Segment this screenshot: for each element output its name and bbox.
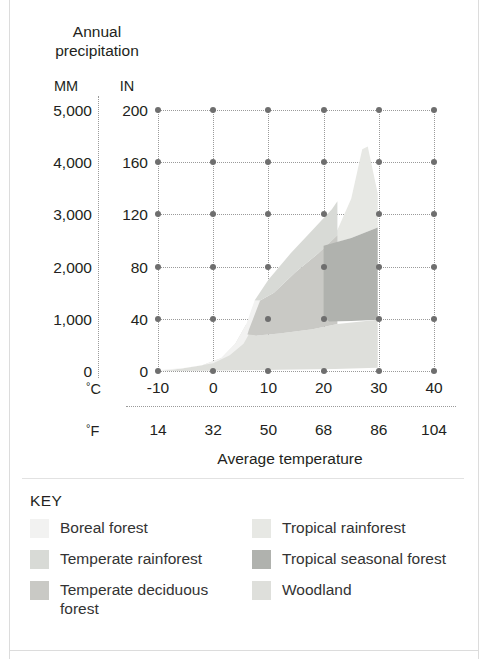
gridline-vertical: [434, 110, 435, 371]
legend-item[interactable]: Woodland: [252, 580, 467, 604]
key-title: KEY: [30, 492, 62, 510]
x-tick-label-fahrenheit: 68: [295, 421, 353, 439]
y-tick-label-mm: 4,000: [22, 154, 92, 172]
x-tick-label-celsius: 30: [350, 379, 408, 397]
biome-regions: [158, 110, 434, 371]
x-tick-label-celsius: 20: [295, 379, 353, 397]
legend-swatch: [252, 550, 271, 569]
x-tick-label-fahrenheit: 14: [129, 421, 187, 439]
legend-column-left: Boreal forestTemperate rainforestTempera…: [30, 518, 245, 625]
page-border-left: [9, 0, 10, 659]
legend-item[interactable]: Tropical rainforest: [252, 518, 467, 542]
gridline-horizontal: [158, 371, 434, 372]
legend-item-label: Tropical rainforest: [282, 518, 405, 537]
legend-swatch: [30, 581, 49, 600]
grid-node: [321, 264, 327, 270]
legend-swatch: [252, 519, 271, 538]
y-tick-label-mm: 0: [22, 363, 92, 381]
grid-node: [265, 368, 271, 374]
x-axis-unit-c-label: C: [90, 381, 100, 397]
grid-node: [321, 159, 327, 165]
x-axis-unit-celsius: °C: [86, 380, 101, 397]
grid-node: [376, 107, 382, 113]
legend-swatch: [252, 581, 271, 600]
grid-node: [431, 107, 437, 113]
y-tick-label-mm: 5,000: [22, 102, 92, 120]
x-axis-unit-f-label: F: [90, 423, 99, 439]
y-axis-unit-mm-header: MM: [38, 78, 94, 94]
legend-swatch: [30, 550, 49, 569]
legend-item-label: Temperate rainforest: [60, 549, 202, 568]
x-tick-label-celsius: 10: [239, 379, 297, 397]
grid-node: [321, 368, 327, 374]
celsius-fahrenheit-separator: [126, 406, 456, 407]
grid-node: [431, 316, 437, 322]
legend-item-label: Woodland: [282, 580, 352, 599]
mm-in-separator: [98, 96, 99, 378]
grid-node: [210, 316, 216, 322]
grid-node: [376, 368, 382, 374]
page-border-bottom: [9, 650, 479, 651]
grid-node: [321, 107, 327, 113]
x-tick-label-celsius: -10: [129, 379, 187, 397]
legend-item[interactable]: Temperate deciduous forest: [30, 580, 245, 618]
x-tick-label-fahrenheit: 86: [350, 421, 408, 439]
grid-node: [155, 107, 161, 113]
grid-node: [155, 316, 161, 322]
grid-node: [376, 159, 382, 165]
grid-node: [431, 264, 437, 270]
grid-node: [431, 368, 437, 374]
grid-node: [321, 316, 327, 322]
y-tick-label-in: 160: [104, 154, 148, 172]
y-tick-label-mm: 2,000: [22, 259, 92, 277]
legend-item[interactable]: Boreal forest: [30, 518, 245, 542]
y-tick-label-in: 40: [104, 311, 148, 329]
x-axis-unit-fahrenheit: °F: [86, 422, 99, 439]
key-divider: [22, 478, 464, 479]
x-tick-label-fahrenheit: 50: [239, 421, 297, 439]
grid-node: [376, 264, 382, 270]
biome-chart-figure: Annual precipitation MM IN 5,0002004,000…: [0, 0, 488, 659]
x-tick-label-celsius: 0: [184, 379, 242, 397]
grid-node: [155, 368, 161, 374]
legend-item[interactable]: Tropical seasonal forest: [252, 549, 467, 573]
legend-item-label: Temperate deciduous forest: [60, 580, 245, 618]
legend-item[interactable]: Temperate rainforest: [30, 549, 245, 573]
y-tick-label-mm: 3,000: [22, 206, 92, 224]
x-tick-label-celsius: 40: [405, 379, 463, 397]
y-tick-label-in: 200: [104, 102, 148, 120]
x-axis-title: Average temperature: [120, 450, 460, 468]
grid-node: [431, 159, 437, 165]
grid-node: [376, 316, 382, 322]
y-axis-title: Annual precipitation: [32, 22, 162, 60]
legend-swatch: [30, 519, 49, 538]
legend-item-label: Tropical seasonal forest: [282, 549, 446, 568]
x-tick-label-fahrenheit: 32: [184, 421, 242, 439]
legend-item-label: Boreal forest: [60, 518, 148, 537]
legend-column-right: Tropical rainforestTropical seasonal for…: [252, 518, 467, 611]
y-tick-label-in: 120: [104, 206, 148, 224]
y-axis-unit-in-header: IN: [104, 78, 150, 94]
y-tick-label-in: 80: [104, 259, 148, 277]
grid-node: [210, 368, 216, 374]
y-tick-label-mm: 1,000: [22, 311, 92, 329]
plot-area: [158, 110, 434, 371]
grid-node: [155, 264, 161, 270]
page-border-right: [478, 0, 479, 659]
grid-node: [431, 211, 437, 217]
grid-node: [210, 264, 216, 270]
x-tick-label-fahrenheit: 104: [405, 421, 463, 439]
